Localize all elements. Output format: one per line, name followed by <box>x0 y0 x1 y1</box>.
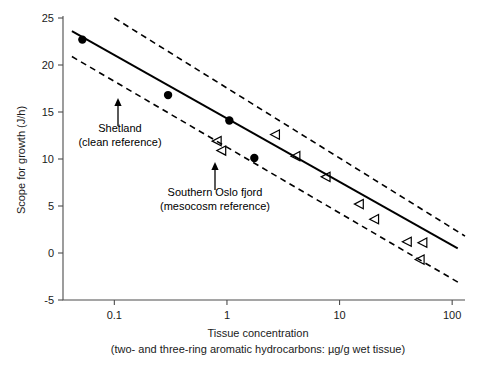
x-tick-label: 10 <box>333 309 345 321</box>
data-point-circle <box>250 154 258 162</box>
data-point-circle <box>164 91 172 99</box>
x-tick-label: 1 <box>224 309 230 321</box>
data-point-circle <box>225 116 233 124</box>
y-tick-label: 20 <box>42 59 54 71</box>
y-tick-label: 5 <box>48 200 54 212</box>
annotation-text-line: (clean reference) <box>78 136 161 148</box>
figure-container: -505101520250.1110100 Shetland(clean ref… <box>0 0 477 375</box>
annotation-text-line: Southern Oslo fjord <box>168 186 263 198</box>
x-tick-label: 100 <box>443 309 461 321</box>
data-point-circle <box>78 35 86 43</box>
x-axis-subtitle: (two- and three-ring aromatic hydrocarbo… <box>111 343 405 355</box>
y-tick-label: 0 <box>48 247 54 259</box>
annotation-text-line: (mesocosm reference) <box>160 200 270 212</box>
annotation-text-line: Shetland <box>98 122 141 134</box>
y-tick-label: 25 <box>42 12 54 24</box>
y-axis-title: Scope for growth (J/h) <box>15 106 27 214</box>
scope-for-growth-scatter-chart: -505101520250.1110100 Shetland(clean ref… <box>0 0 477 375</box>
x-tick-label: 0.1 <box>107 309 122 321</box>
x-axis-title: Tissue concentration <box>207 327 308 339</box>
y-tick-label: 10 <box>42 153 54 165</box>
y-tick-label: 15 <box>42 106 54 118</box>
y-tick-label: -5 <box>44 294 54 306</box>
